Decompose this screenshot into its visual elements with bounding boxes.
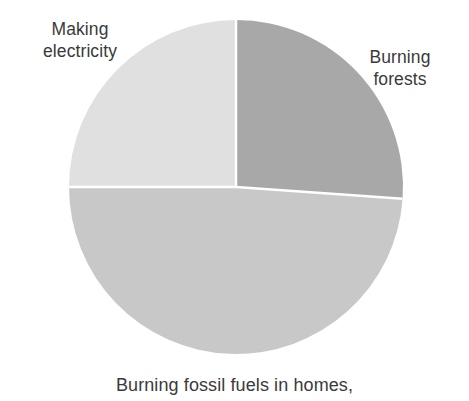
pie-chart-figure: Making electricity Burning forests Burni…	[0, 0, 469, 401]
pie-label-burning-fossil-fuels: Burning fossil fuels in homes,	[0, 374, 469, 397]
pie-label-burning-forests: Burning forests	[338, 46, 462, 91]
pie-label-making-electricity: Making electricity	[14, 18, 146, 63]
